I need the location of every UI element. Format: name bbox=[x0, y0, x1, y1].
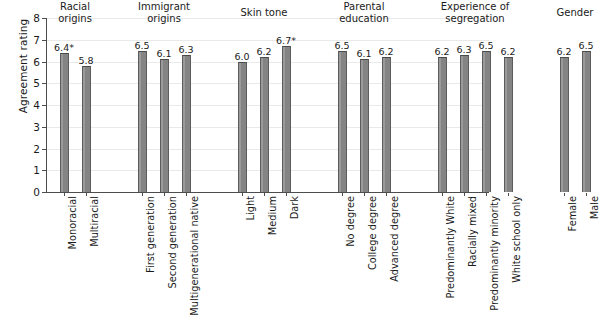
x-axis-line bbox=[46, 192, 489, 193]
bar-value-label: 6.5 bbox=[578, 40, 593, 51]
bar-value-label: 6.7* bbox=[276, 35, 296, 46]
group-header-line: Gender bbox=[557, 7, 594, 19]
bar[interactable]: 6.1 bbox=[360, 59, 369, 192]
bar-value-label: 6.4* bbox=[54, 42, 74, 53]
x-axis-category-label: Advanced degree bbox=[390, 196, 400, 282]
y-axis-tick-mark bbox=[42, 83, 46, 84]
bar-value-label: 6.5 bbox=[334, 40, 349, 51]
bar[interactable]: 6.5 bbox=[338, 51, 347, 192]
bar[interactable]: 6.5 bbox=[482, 51, 491, 192]
x-axis-tick-mark bbox=[142, 193, 143, 196]
x-axis-tick-mark bbox=[286, 193, 287, 196]
bar[interactable]: 6.5 bbox=[582, 51, 591, 192]
bar[interactable]: 6.5 bbox=[138, 51, 147, 192]
bar-value-label: 6.2 bbox=[500, 46, 515, 57]
group-header: Gender bbox=[557, 7, 594, 19]
bar[interactable]: 6.2 bbox=[504, 57, 513, 192]
bar[interactable]: 6.4* bbox=[60, 53, 69, 192]
y-axis-tick-label: 0 bbox=[33, 186, 40, 198]
bar[interactable]: 6.1 bbox=[160, 59, 169, 192]
group-header-line: segregation bbox=[441, 13, 510, 25]
y-axis-tick-label: 1 bbox=[33, 164, 40, 176]
bar[interactable]: 6.3 bbox=[460, 55, 469, 192]
group-header-line: Racial bbox=[58, 1, 92, 13]
y-axis-tick-label: 7 bbox=[33, 34, 40, 46]
bar-value-label: 6.5 bbox=[478, 40, 493, 51]
x-axis-tick-mark bbox=[464, 193, 465, 196]
bar-value-label: 6.3 bbox=[456, 44, 471, 55]
bar-value-label: 5.8 bbox=[78, 55, 93, 66]
x-axis-category-label: Male bbox=[590, 196, 600, 219]
group-header: Parentaleducation bbox=[339, 1, 389, 25]
bar-value-label: 6.5 bbox=[134, 40, 149, 51]
x-axis-tick-mark bbox=[586, 193, 587, 196]
x-axis-category-label: Racially mixed bbox=[468, 196, 478, 267]
group-header: Racialorigins bbox=[58, 1, 92, 25]
bar[interactable]: 6.0 bbox=[238, 62, 247, 193]
y-axis-tick-mark bbox=[42, 127, 46, 128]
x-axis-category-label: Female bbox=[568, 196, 578, 231]
bar[interactable]: 6.2 bbox=[382, 57, 391, 192]
x-axis-category-label: Monoracial bbox=[68, 196, 78, 250]
x-axis-tick-mark bbox=[186, 193, 187, 196]
x-axis-category-label: Second generation bbox=[168, 196, 178, 288]
x-axis-category-label: Predominantly White bbox=[446, 196, 456, 298]
bar[interactable]: 5.8 bbox=[82, 66, 91, 192]
x-axis-tick-mark bbox=[364, 193, 365, 196]
bar[interactable]: 6.2 bbox=[438, 57, 447, 192]
x-axis-tick-mark bbox=[386, 193, 387, 196]
y-axis-tick-mark bbox=[42, 105, 46, 106]
bar[interactable]: 6.2 bbox=[260, 57, 269, 192]
y-axis-tick-mark bbox=[42, 170, 46, 171]
y-axis-tick-mark bbox=[42, 18, 46, 19]
group-header: Experience ofsegregation bbox=[441, 1, 510, 25]
bar-value-label: 6.3 bbox=[178, 44, 193, 55]
x-axis-tick-mark bbox=[564, 193, 565, 196]
x-axis-tick-mark bbox=[64, 193, 65, 196]
x-axis-category-label: White school only bbox=[512, 196, 522, 283]
x-axis-tick-mark bbox=[508, 193, 509, 196]
bar[interactable]: 6.3 bbox=[182, 55, 191, 192]
bar-value-label: 6.1 bbox=[156, 48, 171, 59]
bar[interactable]: 6.2 bbox=[560, 57, 569, 192]
plot-area: 012345678 6.4*5.86.56.16.36.06.26.7*6.56… bbox=[46, 18, 489, 192]
x-axis-category-label: Multigenerational native bbox=[190, 196, 200, 316]
group-header-line: Parental bbox=[339, 1, 389, 13]
bar-value-label: 6.0 bbox=[234, 51, 249, 62]
group-header-line: origins bbox=[58, 13, 92, 25]
x-axis-tick-mark bbox=[86, 193, 87, 196]
group-header-line: Skin tone bbox=[241, 7, 288, 19]
bar-value-label: 6.2 bbox=[434, 46, 449, 57]
gridline bbox=[47, 40, 489, 41]
group-header-line: Experience of bbox=[441, 1, 510, 13]
x-axis-category-label: First generation bbox=[146, 196, 156, 273]
x-axis-category-label: Predominantly minority bbox=[490, 196, 500, 311]
x-axis-tick-mark bbox=[342, 193, 343, 196]
y-axis-tick-label: 6 bbox=[33, 56, 40, 68]
group-header: Skin tone bbox=[241, 7, 288, 19]
x-axis-tick-mark bbox=[164, 193, 165, 196]
y-axis-tick-label: 4 bbox=[33, 99, 40, 111]
y-axis-tick-label: 3 bbox=[33, 121, 40, 133]
x-axis-category-label: College degree bbox=[368, 196, 378, 270]
x-axis-category-label: Dark bbox=[290, 196, 300, 219]
x-axis-category-label: Medium bbox=[268, 196, 278, 235]
y-axis-tick-mark bbox=[42, 62, 46, 63]
x-axis-tick-mark bbox=[442, 193, 443, 196]
bar[interactable]: 6.7* bbox=[282, 46, 291, 192]
x-axis-tick-mark bbox=[242, 193, 243, 196]
y-axis-tick-label: 2 bbox=[33, 143, 40, 155]
y-axis-tick-mark bbox=[42, 40, 46, 41]
group-header-line: education bbox=[339, 13, 389, 25]
y-axis-tick-mark bbox=[42, 192, 46, 193]
x-axis-category-label: Multiracial bbox=[90, 196, 100, 247]
y-axis-tick-label: 8 bbox=[33, 12, 40, 24]
y-axis-tick-label: 5 bbox=[33, 77, 40, 89]
x-axis-category-label: No degree bbox=[346, 196, 356, 247]
group-header-line: Immigrant bbox=[138, 1, 190, 13]
group-header: Immigrantorigins bbox=[138, 1, 190, 25]
bar-value-label: 6.2 bbox=[256, 46, 271, 57]
bar-value-label: 6.1 bbox=[356, 48, 371, 59]
x-axis-tick-mark bbox=[264, 193, 265, 196]
